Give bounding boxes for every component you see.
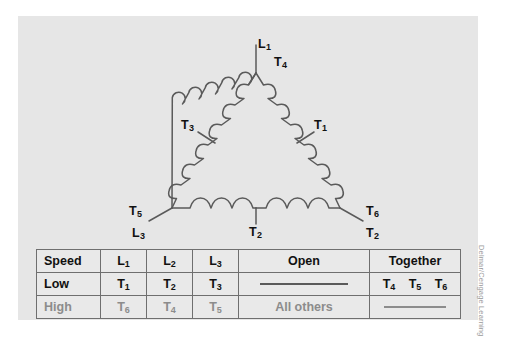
lead-t6-l2 bbox=[340, 208, 363, 221]
diagram-label-l1: L1 bbox=[258, 38, 271, 51]
cell-high-l1: T6 bbox=[101, 296, 147, 319]
diagram-label-l3: L3 bbox=[132, 227, 145, 240]
cell-speed-high: High bbox=[37, 296, 101, 319]
cell-high-l2: T4 bbox=[147, 296, 193, 319]
cell-low-l1: T1 bbox=[101, 273, 147, 296]
cell-speed-low: Low bbox=[37, 273, 101, 296]
winding-diagram: L1 T4 T3 T1 T5 L3 T6 T2 T2 bbox=[18, 16, 478, 238]
figure-panel: L1 T4 T3 T1 T5 L3 T6 T2 T2 Speed L1 L2 L… bbox=[18, 16, 478, 320]
header-speed: Speed bbox=[37, 250, 101, 273]
together-values-low: T4 T5 T6 bbox=[370, 278, 460, 291]
cell-low-together: T4 T5 T6 bbox=[370, 273, 461, 296]
cell-low-l2: T2 bbox=[147, 273, 193, 296]
speed-connection-table: Speed L1 L2 L3 Open Together Low T1 T2 T… bbox=[36, 249, 461, 319]
diagram-label-l2: T2 bbox=[366, 227, 379, 240]
winding-diagram-svg bbox=[18, 16, 478, 238]
together-t5: T5 bbox=[409, 278, 422, 291]
diagram-label-t2: T2 bbox=[249, 226, 262, 239]
lead-t5-l3 bbox=[149, 208, 172, 221]
header-l2: L2 bbox=[147, 250, 193, 273]
together-t6: T6 bbox=[435, 278, 448, 291]
diagram-label-t1: T1 bbox=[314, 119, 327, 132]
cell-high-open: All others bbox=[239, 296, 370, 319]
coil-winding-bottom-left bbox=[172, 198, 256, 208]
cell-high-together bbox=[370, 296, 461, 319]
diagram-label-t6: T6 bbox=[366, 205, 379, 218]
diagram-label-t3: T3 bbox=[181, 119, 194, 132]
header-open: Open bbox=[239, 250, 370, 273]
header-l1: L1 bbox=[101, 250, 147, 273]
table-row: Low T1 T2 T3 T4 T5 T6 bbox=[37, 273, 461, 296]
dash-line-icon bbox=[384, 306, 445, 308]
diagram-label-t4: T4 bbox=[274, 56, 287, 69]
together-t4: T4 bbox=[383, 278, 396, 291]
table-header-row: Speed L1 L2 L3 Open Together bbox=[37, 250, 461, 273]
cell-low-open bbox=[239, 273, 370, 296]
coil-scallops bbox=[169, 73, 344, 208]
coil-winding-bottom-right bbox=[256, 198, 340, 208]
credit-line: Delmar/Cengage Learning bbox=[477, 245, 486, 336]
header-together: Together bbox=[370, 250, 461, 273]
cell-high-l3: T5 bbox=[193, 296, 239, 319]
table-row: High T6 T4 T5 All others bbox=[37, 296, 461, 319]
cell-low-l3: T3 bbox=[193, 273, 239, 296]
dash-line-icon bbox=[260, 283, 348, 285]
diagram-label-t5: T5 bbox=[129, 205, 142, 218]
header-l3: L3 bbox=[193, 250, 239, 273]
